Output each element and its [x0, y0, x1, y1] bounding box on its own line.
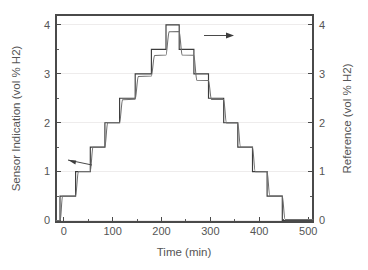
right-ticklabel-3: 3 — [319, 68, 325, 80]
left-ticklabel-2: 2 — [44, 117, 50, 129]
x-ticklabel-300: 300 — [201, 225, 219, 237]
right-ticklabel-4: 4 — [319, 19, 325, 31]
y-axis-title: Sensor Indication (vol % H2) — [10, 45, 22, 191]
x-ticklabel-0: 0 — [61, 225, 67, 237]
right-ticklabel-2: 2 — [319, 117, 325, 129]
x-ticklabel-400: 400 — [250, 225, 268, 237]
left-ticklabel-0: 0 — [44, 214, 50, 226]
x-axis-title: Time (min) — [157, 246, 212, 258]
x-ticklabel-500: 500 — [299, 225, 317, 237]
x-ticklabel-200: 200 — [152, 225, 170, 237]
chart-svg: 0 1 2 3 4 0 1 2 3 4 0 100 200 300 400 50… — [0, 0, 368, 270]
chart-figure: 0 1 2 3 4 0 1 2 3 4 0 100 200 300 400 50… — [0, 0, 368, 270]
left-ticklabel-1: 1 — [44, 165, 50, 177]
left-ticklabel-4: 4 — [44, 19, 50, 31]
y2-axis-title: Reference (vol % H2) — [341, 63, 353, 173]
x-ticklabel-100: 100 — [103, 225, 121, 237]
left-ticklabel-3: 3 — [44, 68, 50, 80]
right-ticklabel-0: 0 — [319, 214, 325, 226]
right-ticklabel-1: 1 — [319, 165, 325, 177]
